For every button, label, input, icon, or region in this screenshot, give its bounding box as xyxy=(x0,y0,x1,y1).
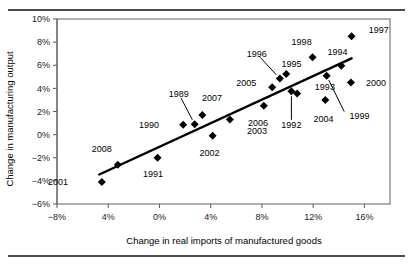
chart-svg: −8%4%0%4%8%12%16% −6%−4%−2%0%2%4%6%8%10%… xyxy=(0,12,413,252)
data-point-label: 2005 xyxy=(236,78,256,88)
x-tick-label: 12% xyxy=(304,212,322,222)
y-tick-label: −2% xyxy=(32,153,50,163)
y-tick-label: 6% xyxy=(37,60,50,70)
data-point-label: 2004 xyxy=(313,114,333,124)
data-point-label: 1989 xyxy=(169,89,189,99)
x-tick-label: 8% xyxy=(255,212,268,222)
x-tick-label: 4% xyxy=(102,212,115,222)
x-tick-label: −8% xyxy=(48,212,66,222)
scatter-chart: −8%4%0%4%8%12%16% −6%−4%−2%0%2%4%6%8%10%… xyxy=(0,12,413,252)
data-point-label: 1997 xyxy=(369,25,389,35)
data-point-label: 2006 xyxy=(248,118,268,128)
x-tick-label: 16% xyxy=(355,212,373,222)
data-point-label: 2002 xyxy=(199,148,219,158)
data-point-label: 1990 xyxy=(139,120,159,130)
x-tick-label: 4% xyxy=(204,212,217,222)
y-tick-label: 0% xyxy=(37,130,50,140)
x-tick-label: 0% xyxy=(153,212,166,222)
y-tick-label: 4% xyxy=(37,84,50,94)
figure-container: −8%4%0%4%8%12%16% −6%−4%−2%0%2%4%6%8%10%… xyxy=(0,0,413,264)
data-point-label: 1995 xyxy=(282,59,302,69)
data-point-label: 1993 xyxy=(315,82,335,92)
data-point-label: 2007 xyxy=(202,93,222,103)
data-point-label: 1992 xyxy=(281,120,301,130)
y-tick-label: 10% xyxy=(32,14,50,24)
y-tick-label: 8% xyxy=(37,37,50,47)
y-tick-label: −6% xyxy=(32,199,50,209)
data-point-label: 1991 xyxy=(143,169,163,179)
data-point-label: 1998 xyxy=(292,37,312,47)
top-divider-rule xyxy=(8,9,405,11)
x-axis-ticks: −8%4%0%4%8%12%16% xyxy=(48,204,374,222)
x-axis-title: Change in real imports of manufactured g… xyxy=(126,235,322,246)
data-point-label: 1999 xyxy=(349,111,369,121)
data-point-label: 1994 xyxy=(327,47,347,57)
data-point-label: 1996 xyxy=(247,49,267,59)
y-tick-label: 2% xyxy=(37,107,50,117)
data-point-label: 2000 xyxy=(366,78,386,88)
data-point-label: 2008 xyxy=(92,144,112,154)
y-axis-title: Change in manufacturing output xyxy=(4,51,15,187)
bottom-divider-rule xyxy=(8,255,405,257)
data-point-label: 2001 xyxy=(48,177,68,187)
